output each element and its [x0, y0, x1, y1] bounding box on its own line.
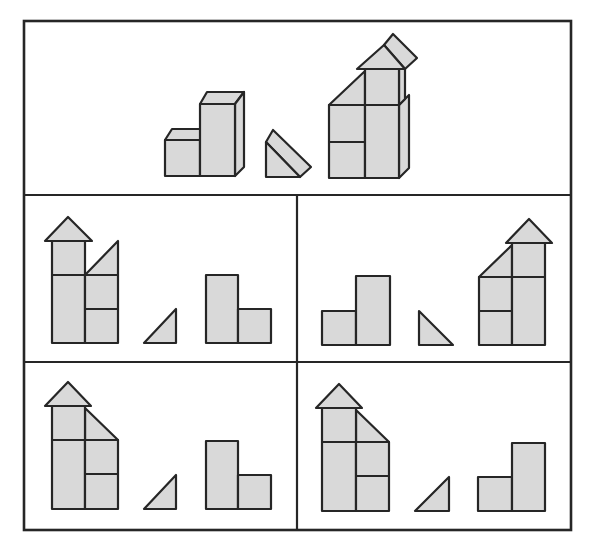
option-1-triangle	[144, 309, 176, 343]
option-2-panel[interactable]	[322, 219, 552, 345]
option-4-triangle	[415, 477, 449, 511]
option-4-tower	[316, 384, 389, 511]
reference-step-blocks	[165, 92, 244, 176]
option-2-tower	[479, 219, 552, 345]
option-3-panel[interactable]	[45, 382, 271, 509]
option-1-panel[interactable]	[45, 217, 271, 343]
option-4-panel[interactable]	[316, 384, 545, 511]
reference-panel	[165, 34, 417, 178]
option-3-step-blocks	[206, 441, 271, 509]
puzzle-figure	[0, 0, 591, 554]
option-4-step-blocks	[478, 443, 545, 511]
reference-prism	[266, 130, 311, 177]
reference-tower	[329, 34, 417, 178]
option-3-triangle	[144, 475, 176, 509]
option-3-tower	[45, 382, 118, 509]
option-2-step-blocks	[322, 276, 390, 345]
option-1-step-blocks	[206, 275, 271, 343]
option-2-triangle	[419, 311, 453, 345]
option-1-tower	[45, 217, 118, 343]
